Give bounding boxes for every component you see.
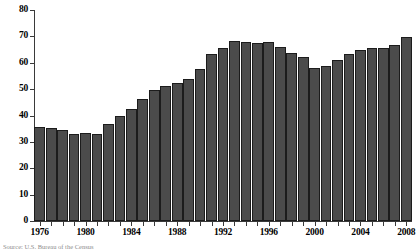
y-axis-tick-label: 10 — [19, 190, 28, 200]
y-axis-tick — [30, 116, 34, 117]
x-axis-tick — [97, 222, 98, 226]
x-axis-tick-label: 1996 — [260, 228, 278, 238]
y-axis-tick — [30, 10, 34, 11]
x-axis-tick — [292, 222, 293, 226]
bar — [275, 47, 286, 221]
bar — [206, 54, 217, 221]
x-axis-tick — [189, 222, 190, 226]
bar — [309, 68, 320, 221]
x-axis-tick — [154, 222, 155, 226]
y-axis-tick-label: 0 — [23, 216, 28, 226]
x-axis-tick — [143, 222, 144, 226]
bar — [126, 109, 137, 221]
bar — [401, 37, 412, 221]
bar — [218, 48, 229, 221]
bar — [80, 133, 91, 221]
bar — [195, 69, 206, 221]
x-axis-tick — [360, 222, 361, 226]
x-axis-tick — [338, 222, 339, 226]
x-axis-tick — [303, 222, 304, 226]
x-axis-tick — [108, 222, 109, 226]
x-axis-tick — [406, 222, 407, 226]
x-axis-tick-label: 2000 — [306, 228, 324, 238]
x-axis-tick-label: 2008 — [397, 228, 415, 238]
bar — [298, 57, 309, 221]
x-axis-tick — [86, 222, 87, 226]
x-axis-tick — [212, 222, 213, 226]
y-axis-tick-label: 80 — [19, 5, 28, 15]
x-axis-tick-label: 1976 — [31, 228, 49, 238]
x-axis-tick — [269, 222, 270, 226]
bar — [172, 83, 183, 221]
y-axis-tick — [30, 89, 34, 90]
bar — [160, 86, 171, 221]
y-axis-tick-label: 50 — [19, 84, 28, 94]
x-axis-tick — [120, 222, 121, 226]
x-axis-tick — [383, 222, 384, 226]
x-axis-tick — [257, 222, 258, 226]
y-axis-tick-label: 30 — [19, 137, 28, 147]
y-axis-tick — [30, 221, 34, 222]
y-axis-tick — [30, 63, 34, 64]
x-axis-tick — [280, 222, 281, 226]
x-axis-tick — [326, 222, 327, 226]
bar — [115, 116, 126, 221]
x-axis-tick — [200, 222, 201, 226]
x-axis-tick — [40, 222, 41, 226]
bar — [344, 54, 355, 221]
x-axis-tick — [51, 222, 52, 226]
x-axis-tick — [234, 222, 235, 226]
y-axis-tick-label: 20 — [19, 164, 28, 174]
bar — [92, 134, 103, 221]
bar — [137, 99, 148, 221]
y-axis-tick — [30, 36, 34, 37]
chart-caption: Source: U.S. Bureau of the Census — [3, 243, 415, 251]
x-axis-tick — [349, 222, 350, 226]
bar — [389, 45, 400, 221]
bar — [149, 90, 160, 221]
bar-chart-figure: 01020304050607080 1976198019841988199219… — [0, 0, 418, 252]
x-axis-tick — [166, 222, 167, 226]
bar — [321, 66, 332, 221]
bar — [367, 48, 378, 221]
x-axis-tick — [246, 222, 247, 226]
y-axis-tick-label: 70 — [19, 32, 28, 42]
bar — [57, 130, 68, 221]
x-axis-tick-label: 1984 — [122, 228, 140, 238]
x-axis-tick — [223, 222, 224, 226]
x-axis-tick — [315, 222, 316, 226]
bar — [252, 43, 263, 221]
x-axis-tick-label: 1992 — [214, 228, 232, 238]
bar — [69, 134, 80, 221]
x-axis-tick — [177, 222, 178, 226]
bar — [183, 79, 194, 221]
bar — [229, 41, 240, 221]
x-axis-tick-label: 1980 — [76, 228, 94, 238]
bar — [355, 50, 366, 221]
y-axis-tick-label: 60 — [19, 58, 28, 68]
x-axis-tick — [372, 222, 373, 226]
x-axis-tick — [395, 222, 396, 226]
bar — [34, 127, 45, 221]
bar — [241, 42, 252, 221]
bar — [378, 48, 389, 221]
bar — [263, 42, 274, 221]
bar — [332, 60, 343, 221]
x-axis-tick-label: 1988 — [168, 228, 186, 238]
x-axis-tick — [74, 222, 75, 226]
plot-area: 01020304050607080 1976198019841988199219… — [34, 10, 412, 222]
x-axis-tick-label: 2004 — [351, 228, 369, 238]
bar — [103, 124, 114, 221]
x-axis-tick — [131, 222, 132, 226]
y-axis-tick-label: 40 — [19, 111, 28, 121]
x-axis-tick — [63, 222, 64, 226]
bar — [46, 128, 57, 221]
bar — [286, 53, 297, 221]
